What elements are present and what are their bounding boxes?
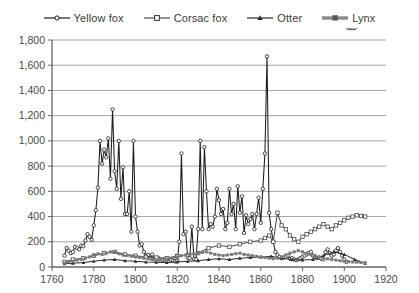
data-point-marker bbox=[90, 238, 93, 241]
y-axis-tick-label: 400 bbox=[27, 210, 45, 222]
data-point-marker bbox=[132, 139, 135, 142]
data-point-marker bbox=[67, 260, 70, 263]
y-axis-tick-label: 200 bbox=[27, 235, 45, 247]
data-point-marker bbox=[196, 227, 199, 230]
gridlines bbox=[48, 40, 386, 267]
data-point-marker bbox=[105, 156, 108, 159]
data-point-marker bbox=[159, 258, 162, 261]
data-point-marker bbox=[314, 254, 317, 257]
data-point-marker bbox=[226, 254, 229, 257]
data-point-marker bbox=[213, 253, 216, 256]
data-point-marker bbox=[82, 244, 85, 247]
legend-item-yellow-fox: Yellow fox bbox=[44, 13, 124, 24]
data-point-marker bbox=[80, 258, 83, 261]
data-point-marker bbox=[293, 250, 296, 253]
data-point-marker bbox=[84, 257, 87, 260]
data-point-marker bbox=[322, 222, 325, 225]
data-point-marker bbox=[265, 55, 268, 58]
data-point-marker bbox=[355, 214, 358, 217]
x-axis-tick-label: 1880 bbox=[291, 273, 315, 285]
data-point-marker bbox=[201, 251, 204, 254]
data-point-marker bbox=[184, 254, 187, 257]
data-point-marker bbox=[107, 137, 110, 140]
legend-label-yellow-fox: Yellow fox bbox=[74, 13, 124, 24]
data-point-marker bbox=[203, 145, 206, 148]
data-series bbox=[63, 28, 367, 265]
data-point-marker bbox=[71, 260, 74, 263]
data-point-marker bbox=[297, 249, 300, 252]
data-point-marker bbox=[128, 190, 131, 193]
data-point-marker bbox=[351, 215, 354, 218]
data-point-marker bbox=[119, 197, 122, 200]
data-point-marker bbox=[301, 235, 304, 238]
x-axis-tick-label: 1860 bbox=[249, 273, 273, 285]
data-point-marker bbox=[92, 254, 95, 257]
data-point-marker bbox=[63, 262, 66, 265]
data-point-marker bbox=[330, 227, 333, 230]
data-point-marker bbox=[125, 212, 128, 215]
data-point-marker bbox=[353, 28, 356, 30]
data-point-marker bbox=[207, 227, 210, 230]
legend-item-lynx: Lynx bbox=[322, 13, 375, 24]
plot-area: 02004006008001,0001,2001,4001,6001,800 1… bbox=[0, 28, 419, 293]
data-point-marker bbox=[117, 252, 120, 255]
data-point-marker bbox=[267, 234, 270, 237]
series-yellow-fox bbox=[63, 28, 357, 264]
data-point-marker bbox=[347, 260, 350, 263]
data-point-marker bbox=[94, 209, 97, 212]
data-point-marker bbox=[151, 258, 154, 261]
y-axis-tick-label: 800 bbox=[27, 160, 45, 172]
data-point-marker bbox=[288, 252, 291, 255]
data-point-marker bbox=[251, 254, 254, 257]
data-point-marker bbox=[121, 254, 124, 257]
data-point-marker bbox=[142, 250, 145, 253]
data-point-marker bbox=[217, 198, 220, 201]
data-point-marker bbox=[276, 211, 279, 214]
data-point-marker bbox=[147, 257, 150, 260]
x-axis-tick-label: 1780 bbox=[82, 273, 106, 285]
y-axis-tick-label: 1,600 bbox=[19, 59, 45, 71]
legend-label-corsac-fox: Corsac fox bbox=[174, 13, 228, 24]
y-axis-ticks: 02004006008001,0001,2001,4001,6001,800 bbox=[19, 34, 45, 273]
data-point-marker bbox=[238, 243, 241, 246]
x-axis-tick-label: 1920 bbox=[374, 273, 398, 285]
data-point-marker bbox=[138, 256, 141, 259]
x-axis-tick-label: 1760 bbox=[40, 273, 64, 285]
axis-lines bbox=[52, 40, 386, 271]
data-point-marker bbox=[213, 215, 216, 218]
data-point-marker bbox=[359, 214, 362, 217]
data-point-marker bbox=[297, 240, 300, 243]
y-axis-tick-label: 600 bbox=[27, 185, 45, 197]
data-point-marker bbox=[130, 230, 133, 233]
data-point-marker bbox=[326, 257, 329, 260]
data-point-marker bbox=[205, 250, 208, 253]
data-point-marker bbox=[163, 257, 166, 260]
data-point-marker bbox=[272, 240, 275, 243]
data-point-marker bbox=[257, 196, 260, 199]
data-point-marker bbox=[205, 190, 208, 193]
data-point-marker bbox=[359, 261, 362, 264]
data-point-marker bbox=[84, 239, 87, 242]
filled-square-marker-icon bbox=[322, 13, 348, 23]
data-point-marker bbox=[109, 177, 112, 180]
data-point-marker bbox=[226, 221, 229, 224]
data-point-marker bbox=[355, 261, 358, 264]
data-point-marker bbox=[77, 248, 80, 251]
data-point-marker bbox=[176, 255, 179, 258]
data-point-marker bbox=[88, 255, 91, 258]
data-point-marker bbox=[322, 257, 325, 260]
data-point-marker bbox=[301, 250, 304, 253]
small-triangle-marker-icon bbox=[247, 13, 273, 23]
data-point-marker bbox=[234, 227, 237, 230]
data-point-marker bbox=[180, 152, 183, 155]
chart-svg: 02004006008001,0001,2001,4001,6001,800 1… bbox=[0, 28, 419, 293]
data-point-marker bbox=[113, 169, 116, 172]
data-point-marker bbox=[134, 215, 137, 218]
data-point-marker bbox=[318, 255, 321, 258]
data-point-marker bbox=[238, 211, 241, 214]
data-point-marker bbox=[109, 250, 112, 253]
data-point-marker bbox=[263, 152, 266, 155]
data-point-marker bbox=[351, 260, 354, 263]
data-point-marker bbox=[172, 256, 175, 259]
data-point-marker bbox=[272, 257, 275, 260]
